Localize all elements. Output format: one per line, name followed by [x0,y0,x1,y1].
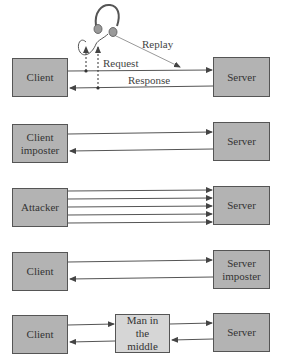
server-box: Server [213,186,270,225]
server-imposter-box: Server imposter [213,250,270,289]
client-label: Client [27,71,54,84]
server-label: Server [227,71,256,84]
attacker-box: Attacker [12,188,68,227]
attacker-label: Attacker [21,201,59,214]
server-box: Server [213,313,270,352]
man-in-the-middle-box: Man in the middle [115,314,170,353]
client-imposter-box: Client imposter [12,124,68,163]
client-label: Client [27,265,54,278]
man-in-the-middle-label: Man in the middle [121,314,165,353]
server-imposter-label: Server imposter [219,257,265,283]
client-label: Client [27,328,54,341]
server-box: Server [213,57,270,97]
server-label: Server [227,135,256,148]
connection-lines [0,0,284,363]
server-label: Server [227,199,256,212]
request-label: Request [103,57,138,69]
headphones-icon [94,5,119,37]
client-imposter-label: Client imposter [18,131,62,157]
replay-label: Replay [142,38,173,50]
response-label: Response [128,74,170,86]
server-box: Server [213,122,270,161]
client-box: Client [12,315,68,354]
client-box: Client [12,58,68,97]
client-box: Client [12,252,68,291]
server-label: Server [227,326,256,339]
